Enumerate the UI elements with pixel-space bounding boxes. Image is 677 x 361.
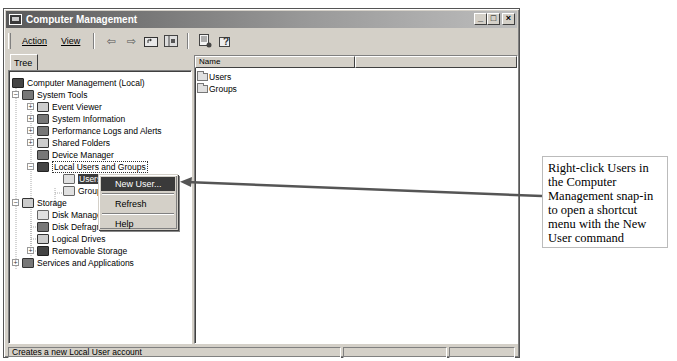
tree-item-services-and-applications[interactable]: + Services and Applications [12,257,134,268]
toolbar-separator-2 [187,33,189,49]
show-hide-tree-icon[interactable] [163,34,179,48]
tree-item-logical-drives[interactable]: Logical Drives [37,233,105,244]
tree-item-label: Removable Storage [52,246,127,256]
defrag-icon [37,222,49,232]
menu-item-help[interactable]: Help [101,217,175,231]
collapse-icon[interactable]: − [27,163,34,170]
tree-item-label: Device Manager [52,150,114,160]
status-text: Creates a new Local User account [8,347,341,358]
users-groups-icon [37,162,49,172]
expand-icon[interactable]: + [27,115,34,122]
tree-item-label: Services and Applications [37,258,134,268]
list-item-label: Users [209,72,231,82]
tree-item-computer-management[interactable]: Computer Management (Local) [12,77,145,88]
status-cell-3 [449,347,515,358]
svg-text:?: ? [223,36,229,47]
tree-item-label: Event Viewer [52,102,102,112]
tree-item-device-manager[interactable]: Device Manager [37,149,114,160]
expand-icon[interactable]: + [27,139,34,146]
shared-folder-icon [37,138,49,148]
performance-icon [37,126,49,136]
tree-item-system-tools[interactable]: − System Tools [12,89,87,100]
tree-item-system-information[interactable]: + System Information [27,113,125,124]
folder-icon [197,73,208,81]
tree-item-local-users-and-groups[interactable]: − Local Users and Groups [27,161,148,172]
help-icon[interactable]: ? [217,34,233,48]
tree-item-label: Computer Management (Local) [27,78,145,88]
storage-icon [22,198,34,208]
expand-icon[interactable]: + [27,103,34,110]
title-bar[interactable]: Computer Management _ □ × [6,11,517,28]
menu-item-refresh[interactable]: Refresh [101,197,175,211]
tree-item-users[interactable]: Users [63,173,102,184]
folder-icon [197,85,208,93]
tree-item-event-viewer[interactable]: + Event Viewer [27,101,102,112]
minimize-button[interactable]: _ [474,13,487,25]
device-manager-icon [37,150,49,160]
tree-tab-row: Tree [8,53,192,71]
tree-item-label: Local Users and Groups [52,161,148,173]
list-item-label: Groups [209,84,237,94]
export-list-icon[interactable] [197,34,213,48]
menu-action[interactable]: Action [15,36,54,46]
column-header-empty[interactable] [355,56,517,68]
disk-management-icon [37,210,49,220]
removable-storage-icon [37,246,49,256]
tree-item-label: System Information [52,114,125,124]
menu-separator [102,213,174,215]
drive-icon [37,234,49,244]
list-item-users[interactable]: Users [195,71,517,83]
window-controls: _ □ × [474,13,515,25]
tab-tree[interactable]: Tree [10,54,38,71]
tree-item-performance-logs[interactable]: + Performance Logs and Alerts [27,125,162,136]
up-folder-icon[interactable] [143,34,159,48]
list-item-groups[interactable]: Groups [195,83,517,95]
collapse-icon[interactable]: − [12,91,19,98]
column-headers: Name [195,56,517,68]
collapse-icon[interactable]: − [12,199,19,206]
status-cell-2 [343,347,447,358]
tree-item-label: Storage [37,198,67,208]
expand-icon[interactable]: + [12,259,19,266]
toolbar-grip[interactable] [8,33,11,49]
services-icon [22,258,34,268]
tree-item-label: System Tools [37,90,87,100]
context-menu: New User... Refresh Help [98,174,178,230]
toolbar: Action View ⇦ ⇨ ? [8,31,515,51]
menu-item-new-user[interactable]: New User... [101,177,175,191]
expand-icon[interactable]: + [27,247,34,254]
folder-icon [63,174,75,184]
computer-management-window: Computer Management _ □ × Action View ⇦ … [3,8,520,358]
menu-action-label: Action [22,36,47,46]
status-bar: Creates a new Local User account [8,347,515,359]
event-viewer-icon [37,102,49,112]
system-info-icon [37,114,49,124]
tree-item-storage[interactable]: − Storage [12,197,67,208]
toolbar-separator [93,33,95,49]
tools-icon [22,90,34,100]
close-button[interactable]: × [502,13,515,25]
expand-icon[interactable]: + [27,127,34,134]
maximize-button[interactable]: □ [487,13,500,25]
back-arrow-icon[interactable]: ⇦ [103,34,119,48]
tree-item-shared-folders[interactable]: + Shared Folders [27,137,110,148]
menu-separator [102,193,174,195]
column-header-name[interactable]: Name [195,56,355,68]
annotation-callout: Right-click Users in the Computer Manage… [542,156,668,248]
tree-item-label: Shared Folders [52,138,110,148]
forward-arrow-icon[interactable]: ⇨ [123,34,139,48]
menu-view[interactable]: View [54,36,87,46]
details-pane[interactable]: Name Users Groups [194,55,518,344]
folder-icon [63,186,75,196]
computer-management-icon [9,14,22,25]
tree-item-removable-storage[interactable]: + Removable Storage [27,245,127,256]
tree-item-label: Logical Drives [52,234,105,244]
window-title: Computer Management [26,14,137,25]
menu-view-label: View [61,36,80,46]
tree-item-label: Performance Logs and Alerts [52,126,162,136]
computer-icon [12,78,24,88]
